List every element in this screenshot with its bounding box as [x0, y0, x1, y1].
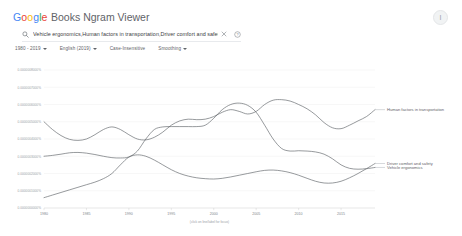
y-axis-tick-label: 0.0000004000%	[18, 137, 42, 141]
y-axis-tick-label: 0.0000001000%	[18, 189, 42, 193]
x-axis-tick-label: 1990	[125, 212, 133, 216]
x-axis-tick-label: 2005	[252, 212, 260, 216]
x-axis-tick-label: 2015	[337, 212, 345, 216]
y-axis-tick-label: 0.0000003000%	[18, 155, 42, 159]
x-axis-tick-label: 1995	[167, 212, 175, 216]
google-logo: Google	[13, 11, 48, 23]
series-line[interactable]	[44, 100, 375, 141]
svg-text:?: ?	[236, 32, 238, 36]
y-axis-tick-label: 0.0000002000%	[18, 172, 42, 176]
search-icon	[22, 31, 29, 38]
corpus-dropdown[interactable]: English (2019)	[59, 44, 98, 53]
smoothing-dropdown[interactable]: Smoothing	[157, 44, 188, 53]
app-header: Google Books Ngram Viewer I ?	[0, 0, 462, 58]
y-axis-tick-label: 0.0000007000%	[18, 86, 42, 90]
year-range-label: 1980 - 2019	[15, 45, 41, 52]
filter-row: 1980 - 2019 English (2019) Case-Insensit…	[14, 44, 188, 53]
y-axis-tick-label: 0.0000006000%	[18, 103, 42, 107]
series-line[interactable]	[44, 155, 375, 198]
year-range-dropdown[interactable]: 1980 - 2019	[14, 44, 48, 53]
y-axis-tick-label: 0.0000005000%	[18, 120, 42, 124]
chart-canvas[interactable]: 0.0000000000%0.0000001000%0.0000002000%0…	[0, 60, 462, 236]
close-icon[interactable]	[220, 30, 228, 38]
help-circle-icon[interactable]: ?	[233, 30, 241, 38]
y-axis-tick-label: 0.0000000000%	[18, 206, 42, 210]
ngram-chart[interactable]: 0.0000000000%0.0000001000%0.0000002000%0…	[0, 60, 462, 236]
app-logo[interactable]: Google Books Ngram Viewer	[13, 11, 149, 23]
smoothing-label: Smoothing	[158, 45, 181, 52]
chart-caption: (click on line/label for focus)	[190, 220, 229, 224]
search-input[interactable]	[33, 29, 218, 39]
product-name: Books Ngram Viewer	[51, 11, 149, 23]
account-avatar[interactable]: I	[433, 10, 448, 25]
y-axis-tick-label: 0.0000008000%	[18, 68, 42, 72]
series-line[interactable]	[44, 103, 375, 169]
case-insensitive-label: Case-Insensitive	[110, 45, 146, 52]
avatar-initial: I	[440, 14, 442, 21]
corpus-label: English (2019)	[60, 45, 91, 52]
series-legend-label[interactable]: Driver comfort and safety	[387, 161, 434, 166]
chevron-down-icon	[43, 48, 47, 50]
x-axis-tick-label: 2010	[295, 212, 303, 216]
chevron-down-icon	[183, 48, 187, 50]
x-axis-tick-label: 1985	[82, 212, 90, 216]
series-legend-label[interactable]: Human factors in transportation	[387, 107, 445, 112]
case-insensitive-toggle[interactable]: Case-Insensitive	[109, 44, 147, 53]
search-bar[interactable]: ?	[22, 27, 241, 42]
chevron-down-icon	[93, 48, 97, 50]
x-axis-tick-label: 1980	[40, 212, 48, 216]
x-axis-tick-label: 2000	[210, 212, 218, 216]
